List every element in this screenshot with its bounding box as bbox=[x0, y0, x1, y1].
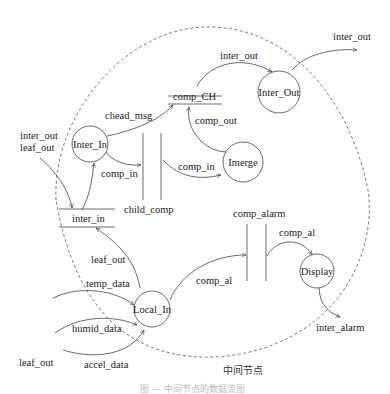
flow-label-comp-al-2: comp_al bbox=[279, 227, 315, 238]
svg-text:Display: Display bbox=[301, 266, 334, 277]
flow-label-inter-out-exit: inter_out bbox=[333, 31, 371, 42]
flow-label-comp-al-1: comp_al bbox=[196, 275, 232, 286]
flow-label-comp-in-2: comp_in bbox=[178, 161, 215, 172]
flow-label-comp-in-1: comp_in bbox=[101, 168, 138, 179]
svg-text:Inter_In: Inter_In bbox=[73, 139, 108, 150]
svg-text:comp_CH: comp_CH bbox=[173, 91, 217, 102]
svg-text:comp_alarm: comp_alarm bbox=[233, 208, 285, 219]
flow-label-inter-alarm: inter_alarm bbox=[316, 322, 364, 333]
flow-label-inter-out-ext: inter_out bbox=[20, 130, 58, 141]
svg-text:Inter_Out: Inter_Out bbox=[259, 87, 300, 98]
boundary-label: 中间节点 bbox=[223, 364, 263, 376]
flow-label-chead-msg: chead_msg bbox=[105, 110, 153, 121]
svg-text:Local_In: Local_In bbox=[133, 304, 172, 315]
svg-text:child_comp: child_comp bbox=[124, 204, 174, 215]
process-local-in: Local_In bbox=[133, 291, 172, 327]
flow-label-comp-out: comp_out bbox=[195, 115, 237, 126]
process-imerge: Imerge bbox=[223, 142, 263, 182]
flow-label-humid-data: humid_data bbox=[72, 323, 122, 334]
store-comp-ch: comp_CH bbox=[168, 91, 222, 104]
svg-text:inter_in: inter_in bbox=[72, 213, 105, 224]
data-flow-diagram: comp_CH child_comp inter_in comp_alarm I… bbox=[0, 0, 390, 394]
flow-label-leaf-out-ext: leaf_out bbox=[20, 142, 54, 153]
flow-label-inter-out: inter_out bbox=[220, 50, 258, 61]
process-inter-out: Inter_Out bbox=[258, 71, 300, 113]
flow-label-temp-data: temp_data bbox=[86, 278, 130, 289]
store-inter-in: inter_in bbox=[59, 209, 115, 227]
figure-caption: 图 — 中间节点的数据流图 bbox=[140, 383, 245, 394]
process-inter-in: Inter_In bbox=[72, 126, 108, 162]
process-display: Display bbox=[300, 254, 334, 288]
svg-text:Imerge: Imerge bbox=[228, 157, 258, 168]
system-boundary bbox=[56, 27, 369, 357]
store-comp-alarm: comp_alarm bbox=[233, 208, 285, 281]
flow-label-accel-data: accel_data bbox=[84, 359, 129, 370]
flow-label-leaf-out-bottom: leaf_out bbox=[19, 357, 53, 368]
flow-label-leaf-out-local: leaf_out bbox=[91, 254, 125, 265]
